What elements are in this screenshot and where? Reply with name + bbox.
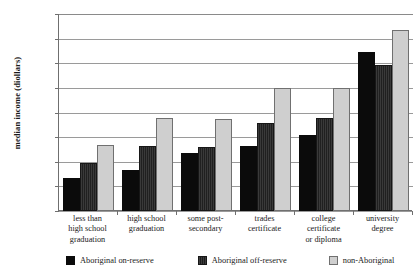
bar	[80, 163, 97, 211]
category-label-line: less than	[58, 214, 117, 224]
legend-swatch-icon	[329, 256, 338, 265]
bar	[358, 52, 375, 211]
legend-item: Aboriginal off-reserve	[198, 256, 287, 265]
chart-legend: Aboriginal on-reserveAboriginal off-rese…	[58, 253, 412, 267]
bar-group	[236, 14, 295, 211]
bar-group	[354, 14, 413, 211]
bar	[375, 65, 392, 211]
bar	[299, 135, 316, 211]
bar	[122, 170, 139, 211]
y-axis-title: median income (diollars)	[12, 28, 22, 178]
category-label-line: trades	[235, 214, 294, 224]
x-axis-category-labels: less thanhigh schoolgraduationhigh schoo…	[58, 214, 412, 250]
bar	[97, 145, 114, 211]
category-label-line: graduation	[117, 224, 176, 234]
bar	[316, 118, 333, 211]
legend-item: non-Aboriginal	[329, 256, 395, 265]
bar-group	[118, 14, 177, 211]
category-label-line: secondary	[176, 224, 235, 234]
plot-area	[58, 14, 412, 211]
x-axis-category-label: some post-secondary	[176, 214, 235, 250]
category-label-line: certificate	[235, 224, 294, 234]
gridline	[59, 211, 413, 212]
legend-item: Aboriginal on-reserve	[66, 256, 154, 265]
bar-groups	[59, 14, 413, 211]
bar-group	[59, 14, 118, 211]
y-tick-mark	[55, 211, 59, 212]
bar	[240, 146, 257, 212]
bar	[333, 88, 350, 211]
bar-chart: median income (diollars) 40,00035,00030,…	[0, 0, 416, 272]
bar	[198, 147, 215, 211]
legend-label: Aboriginal off-reserve	[212, 256, 287, 265]
x-axis-category-label: collegecertificateor diploma	[294, 214, 353, 250]
x-axis-category-label: universitydegree	[353, 214, 412, 250]
category-label-line: or diploma	[294, 235, 353, 245]
bar	[156, 118, 173, 211]
category-label-line: high school	[58, 224, 117, 234]
category-label-line: certificate	[294, 224, 353, 234]
legend-swatch-icon	[198, 256, 207, 265]
bar	[274, 88, 291, 211]
category-label-line: degree	[353, 224, 412, 234]
legend-label: Aboriginal on-reserve	[80, 256, 154, 265]
bar	[257, 123, 274, 211]
category-label-line: high school	[117, 214, 176, 224]
bar	[181, 153, 198, 211]
legend-swatch-icon	[66, 256, 75, 265]
bar	[215, 119, 232, 211]
bar	[392, 30, 409, 211]
bar	[139, 146, 156, 211]
bar-group	[295, 14, 354, 211]
x-axis-category-label: high schoolgraduation	[117, 214, 176, 250]
x-axis-category-label: less thanhigh schoolgraduation	[58, 214, 117, 250]
x-tick-mark	[412, 211, 413, 215]
category-label-line: graduation	[58, 235, 117, 245]
legend-label: non-Aboriginal	[343, 256, 395, 265]
x-axis-category-label: tradescertificate	[235, 214, 294, 250]
category-label-line: university	[353, 214, 412, 224]
bar-group	[177, 14, 236, 211]
category-label-line: some post-	[176, 214, 235, 224]
category-label-line: college	[294, 214, 353, 224]
bar	[63, 178, 80, 211]
